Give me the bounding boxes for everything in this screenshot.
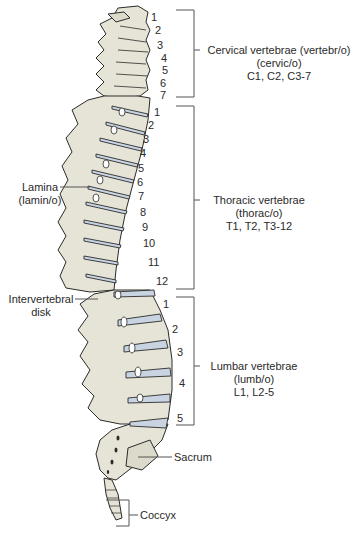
- thoracic-number: 10: [143, 238, 155, 249]
- cervical-number: 2: [155, 25, 161, 36]
- lumbar-number: 4: [179, 378, 185, 389]
- cervical-number: 6: [160, 78, 166, 89]
- thoracic-number: 6: [137, 177, 143, 188]
- thoracic-number: 8: [140, 207, 146, 218]
- thoracic-label: Thoracic vertebrae (thorac/o) T1, T2, T3…: [204, 194, 314, 233]
- cervical-label: Cervical vertebrae (vertebr/o) (cervic/o…: [204, 44, 354, 83]
- lumbar-number: 2: [172, 324, 178, 335]
- lamina-title: Lamina: [18, 181, 62, 194]
- thoracic-number: 11: [148, 257, 159, 268]
- lamina-combining-form: (lamin/o): [18, 194, 62, 207]
- thoracic-number: 1: [154, 107, 160, 118]
- cervical-number: 7: [160, 90, 166, 101]
- thoracic-number: 5: [138, 163, 144, 174]
- lumbar-number: 3: [177, 347, 183, 358]
- cervical-number: 4: [161, 53, 167, 64]
- lumbar-number: 5: [177, 413, 183, 424]
- thoracic-number: 2: [148, 120, 154, 131]
- thoracic-title: Thoracic vertebrae: [204, 194, 314, 207]
- cervical-number: 3: [157, 40, 163, 51]
- lumbar-bracket: [176, 297, 194, 425]
- cervical-abbrev: C1, C2, C3-7: [204, 70, 354, 83]
- thoracic-number: 3: [143, 134, 149, 145]
- thoracic-number: 9: [142, 222, 148, 233]
- lumbar-title: Lumbar vertebrae: [204, 360, 304, 373]
- thoracic-bracket: [176, 106, 194, 289]
- lumbar-number: 1: [163, 299, 169, 310]
- cervical-number: 1: [151, 12, 157, 23]
- lumbar-combining-form: (lumb/o): [204, 373, 304, 386]
- lumbar-abbrev: L1, L2-5: [204, 386, 304, 399]
- thoracic-number: 12: [156, 276, 168, 287]
- sacrum-label: Sacrum: [174, 451, 212, 464]
- thoracic-number: 4: [140, 148, 146, 159]
- cervical-title: Cervical vertebrae (vertebr/o): [204, 44, 354, 57]
- intervertebral-disk-label: Intervertebral disk: [6, 293, 76, 319]
- cervical-bracket: [176, 10, 194, 97]
- lumbar-label: Lumbar vertebrae (lumb/o) L1, L2-5: [204, 360, 304, 399]
- disk-line1: Intervertebral: [6, 293, 76, 306]
- lamina-label: Lamina (lamin/o): [18, 181, 62, 207]
- thoracic-number: 7: [138, 191, 144, 202]
- cervical-combining-form: (cervic/o): [204, 57, 354, 70]
- coccyx-text: Coccyx: [140, 509, 176, 522]
- sacrum-text: Sacrum: [174, 451, 212, 464]
- disk-line2: disk: [6, 306, 76, 319]
- coccyx-label: Coccyx: [140, 509, 176, 522]
- thoracic-abbrev: T1, T2, T3-12: [204, 220, 314, 233]
- cervical-number: 5: [162, 65, 168, 76]
- thoracic-combining-form: (thorac/o): [204, 207, 314, 220]
